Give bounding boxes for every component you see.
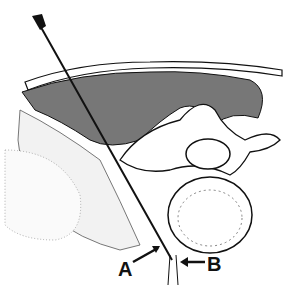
spinal-canal (186, 139, 230, 169)
nerve-root (168, 255, 178, 285)
arrow-a (133, 248, 158, 262)
label-a: A (118, 258, 132, 281)
vertebral-body (168, 177, 252, 253)
label-b: B (207, 253, 221, 276)
needle-hub (32, 14, 46, 30)
anatomy-illustration (0, 0, 297, 290)
